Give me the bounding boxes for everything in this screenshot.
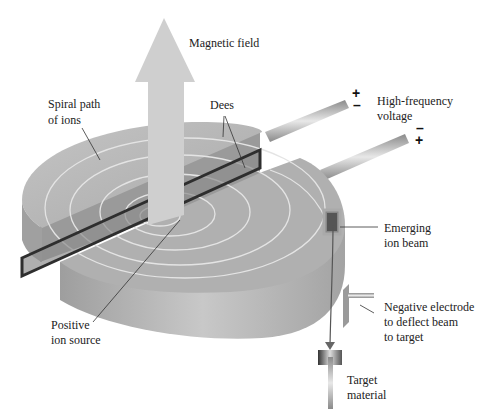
target-material [318, 350, 342, 409]
label-source-2: ion source [51, 333, 101, 347]
sign-upper-minus: – [353, 99, 361, 111]
label-emerging-2: ion beam [384, 236, 428, 250]
label-target-2: material [347, 388, 386, 402]
label-electrode-2: to deflect beam [384, 315, 458, 329]
label-hf-voltage-2: voltage [377, 109, 412, 123]
sign-lower-plus: + [415, 134, 423, 146]
label-emerging-1: Emerging [384, 221, 431, 235]
label-source-1: Positive [51, 318, 90, 332]
cyclotron-diagram [0, 0, 486, 416]
label-electrode-3: to target [384, 330, 423, 344]
label-magnetic-field: Magnetic field [189, 36, 259, 50]
negative-electrode [343, 284, 374, 328]
label-hf-voltage-1: High-frequency [377, 94, 453, 108]
label-spiral-path-1: Spiral path [48, 97, 100, 111]
label-spiral-path-2: of ions [48, 113, 81, 127]
label-electrode-1: Negative electrode [384, 300, 474, 314]
label-dees: Dees [210, 98, 234, 112]
label-target-1: Target [347, 373, 377, 387]
